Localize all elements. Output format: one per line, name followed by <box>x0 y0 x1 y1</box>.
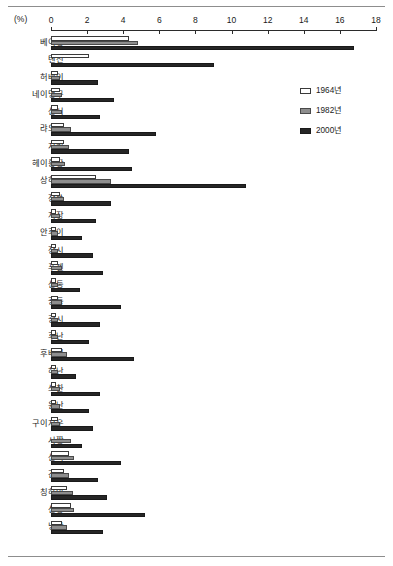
bar-1982 <box>51 473 69 477</box>
x-tick-label-16: 16 <box>335 15 344 25</box>
bar-1982 <box>51 266 62 270</box>
bar-1964 <box>51 417 58 421</box>
x-tick-mark-16 <box>340 30 341 34</box>
bar-2000 <box>51 98 114 102</box>
bar-1964 <box>51 469 64 473</box>
bar-1964 <box>51 227 56 231</box>
bar-2000 <box>51 322 100 326</box>
bar-2000 <box>51 305 121 309</box>
bar-1982 <box>51 404 60 408</box>
bar-row: 톈진 <box>0 52 393 69</box>
bar-2000 <box>51 495 107 499</box>
x-tick-label-14: 14 <box>299 15 308 25</box>
bar-2000 <box>51 374 76 378</box>
figure-canvas: (%) 024681012141618 베이징톈진허베이네이멍구산시랴오닝지린헤… <box>0 0 393 566</box>
legend-label-1964: 1964년 <box>316 84 342 98</box>
bar-1982 <box>51 387 60 391</box>
bar-row: 상하이 <box>0 173 393 190</box>
bar-2000 <box>51 115 100 119</box>
bar-1964 <box>51 140 64 144</box>
bar-2000 <box>51 201 111 205</box>
bar-2000 <box>51 236 82 240</box>
bar-2000 <box>51 288 80 292</box>
bar-1982 <box>51 127 71 131</box>
bar-1982 <box>51 249 58 253</box>
bar-row: 산시 <box>0 450 393 467</box>
x-tick-label-4: 4 <box>121 15 126 25</box>
bar-1964 <box>51 261 58 265</box>
bar-row: 윈난 <box>0 398 393 415</box>
bar-1982 <box>51 352 67 356</box>
bar-1982 <box>51 93 62 97</box>
x-tick-label-6: 6 <box>157 15 162 25</box>
bar-2000 <box>51 46 354 50</box>
bar-1964 <box>51 244 56 248</box>
legend-swatch-1964 <box>300 88 311 95</box>
bar-1964 <box>51 348 62 352</box>
bar-1982 <box>51 439 71 443</box>
x-axis-tick-labels: 024681012141618 <box>51 15 376 27</box>
chart-legend: 1964년 1982년 2000년 <box>300 84 342 144</box>
x-tick-mark-2 <box>87 30 88 34</box>
bar-1982 <box>51 335 58 339</box>
bar-1964 <box>51 400 56 404</box>
bar-2000 <box>51 357 134 361</box>
legend-item-2000: 2000년 <box>300 124 342 138</box>
bar-1982 <box>51 110 62 114</box>
x-tick-mark-12 <box>268 30 269 34</box>
legend-label-2000: 2000년 <box>316 124 342 138</box>
bar-1964 <box>51 278 56 282</box>
bar-2000 <box>51 167 132 171</box>
bar-1964 <box>51 382 56 386</box>
bar-2000 <box>51 63 214 67</box>
bar-2000 <box>51 444 82 448</box>
legend-label-1982: 1982년 <box>316 104 342 118</box>
bar-row: 산둥 <box>0 277 393 294</box>
x-tick-mark-6 <box>159 30 160 34</box>
bar-row: 구이저우 <box>0 416 393 433</box>
bar-row: 장쑤 <box>0 191 393 208</box>
bar-row: 안후이 <box>0 225 393 242</box>
x-tick-label-2: 2 <box>85 15 90 25</box>
x-tick-mark-0 <box>51 27 52 31</box>
bar-1982 <box>51 525 67 529</box>
figure-top-rule <box>8 6 385 7</box>
bar-2000 <box>51 392 100 396</box>
bar-row: 신장 <box>0 502 393 519</box>
bar-1964 <box>51 330 56 334</box>
bar-1982 <box>51 370 58 374</box>
bar-1982 <box>51 162 65 166</box>
bar-1964 <box>51 36 129 40</box>
bar-1964 <box>51 123 64 127</box>
bar-1982 <box>51 41 138 45</box>
x-tick-mark-8 <box>195 30 196 34</box>
bar-1964 <box>51 503 71 507</box>
legend-item-1982: 1982년 <box>300 104 342 118</box>
bar-row: 시짱 <box>0 433 393 450</box>
bar-2000 <box>51 184 246 188</box>
bar-1964 <box>51 71 58 75</box>
bar-1982 <box>51 214 60 218</box>
bar-1964 <box>51 105 58 109</box>
bar-1964 <box>51 209 56 213</box>
bar-row: 쓰촨 <box>0 381 393 398</box>
bar-1982 <box>51 456 74 460</box>
bar-1964 <box>51 313 56 317</box>
legend-item-1964: 1964년 <box>300 84 342 98</box>
bar-row: 저장 <box>0 208 393 225</box>
bar-2000 <box>51 461 121 465</box>
bar-1982 <box>51 179 111 183</box>
bar-1964 <box>51 365 56 369</box>
bar-1982 <box>51 197 64 201</box>
bar-1964 <box>51 451 69 455</box>
bar-row: 베이징 <box>0 35 393 52</box>
bar-2000 <box>51 426 93 430</box>
legend-swatch-2000 <box>300 128 311 135</box>
bar-row: 광둥 <box>0 294 393 311</box>
bar-2000 <box>51 271 103 275</box>
bar-row: 허난 <box>0 364 393 381</box>
x-tick-label-0: 0 <box>49 15 54 25</box>
bar-2000 <box>51 132 156 136</box>
bar-1982 <box>51 318 58 322</box>
bar-1982 <box>51 300 62 304</box>
